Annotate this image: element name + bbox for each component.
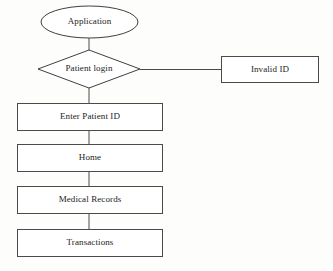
- node-invalid-id[interactable]: [221, 56, 319, 83]
- node-transactions[interactable]: [17, 229, 163, 257]
- node-patient-login[interactable]: [38, 50, 140, 88]
- node-application[interactable]: [41, 6, 138, 38]
- node-enter-patient-id[interactable]: [17, 103, 163, 131]
- node-home[interactable]: [17, 144, 163, 172]
- flowchart-canvas: Application Patient login Invalid ID Ent…: [0, 0, 333, 271]
- node-medical-records[interactable]: [17, 186, 163, 214]
